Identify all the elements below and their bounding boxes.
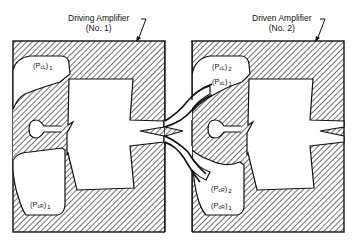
driving-amplifier-title: Driving Amplifier	[68, 13, 129, 23]
driven-amplifier-title: Driven Amplifier	[252, 13, 312, 23]
port-label-pcl-2: (PcL)2	[212, 62, 232, 72]
driven-amplifier-number: (No. 2)	[252, 23, 312, 33]
port-label-pcl-1: (PcL)1	[33, 61, 53, 71]
driven-amplifier-label: Driven Amplifier (No. 2)	[252, 13, 312, 33]
port-label-pcr-1: (PcR)1	[30, 200, 50, 210]
leader-arrow-1	[138, 19, 146, 40]
leader-arrow-2	[317, 19, 325, 40]
amplifier-cascade-diagram	[0, 0, 355, 242]
driving-amplifier-number: (No. 1)	[68, 23, 129, 33]
port-label-pol-1: (PoL)1	[212, 77, 232, 87]
port-label-pcr-2: (PcR)2	[211, 184, 231, 194]
driving-amplifier-label: Driving Amplifier (No. 1)	[68, 13, 129, 33]
port-label-por-1: (PoR)1	[211, 201, 232, 211]
